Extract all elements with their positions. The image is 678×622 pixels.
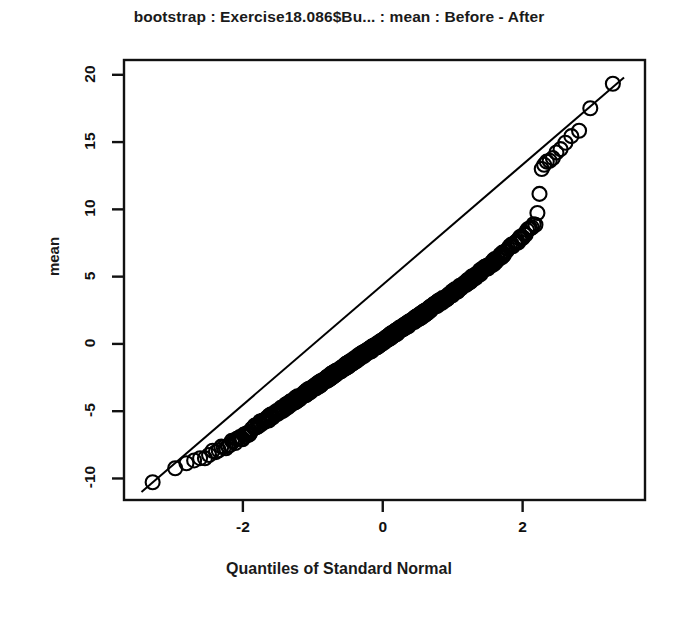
x-tick-label: -2 [223, 518, 263, 536]
y-tick-label: -10 [81, 455, 99, 499]
x-tick-label: 0 [363, 518, 403, 536]
y-tick-label: 20 [81, 52, 99, 96]
qq-plot-figure: bootstrap : Exercise18.086$Bu... : mean … [0, 0, 678, 622]
page-title: bootstrap : Exercise18.086$Bu... : mean … [0, 8, 678, 26]
x-tick-label: 2 [503, 518, 543, 536]
x-axis-label: Quantiles of Standard Normal [0, 560, 678, 578]
y-tick-label: 15 [81, 119, 99, 163]
reference-line [141, 77, 624, 491]
y-axis-label: mean [45, 212, 62, 302]
y-tick-label: 5 [81, 254, 99, 298]
plot-canvas [0, 0, 678, 622]
y-tick-label: -5 [81, 388, 99, 432]
y-tick-label: 10 [81, 186, 99, 230]
y-tick-label: 0 [81, 321, 99, 365]
